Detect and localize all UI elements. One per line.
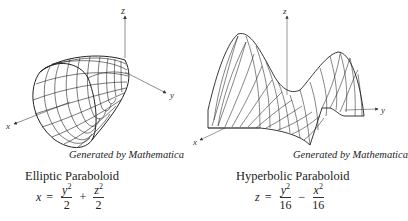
equation-right: z = y2 16 − x2 16: [255, 183, 327, 211]
denominator: 16: [279, 198, 291, 211]
x-axis-right: [200, 128, 225, 140]
exponent: 2: [99, 182, 103, 191]
exponent: 2: [319, 182, 323, 191]
elliptic-paraboloid-plot: [14, 16, 166, 148]
x-axis-label: x: [5, 121, 10, 131]
z-axis-label: z: [120, 5, 125, 16]
eq-lhs: x: [36, 190, 41, 205]
fraction: x2 16: [312, 183, 324, 211]
hyperbolic-paraboloid-plot: [200, 16, 378, 145]
equation-left: x = y2 2 + z2 2: [36, 183, 107, 211]
exponent: 2: [286, 182, 290, 191]
eq-equals: =: [265, 190, 272, 205]
y-axis: [125, 72, 166, 93]
denominator: 16: [312, 198, 324, 211]
x-axis-label-right: x: [192, 137, 197, 147]
y-axis-right: [345, 109, 378, 110]
eq-operator: −: [298, 190, 305, 205]
eq-lhs: z: [255, 190, 260, 205]
figure-title-left: Elliptic Paraboloid: [25, 169, 119, 184]
eq-equals: =: [46, 190, 53, 205]
eq-operator: +: [79, 190, 86, 205]
fraction: y2 16: [279, 183, 291, 211]
exponent: 2: [67, 182, 71, 191]
figure-credit-right: Generated by Mathematica: [293, 149, 408, 160]
z-axis-label-right: z: [282, 6, 287, 16]
y-axis-label: y: [169, 90, 174, 100]
fraction: z2 2: [93, 183, 104, 211]
denominator: 2: [64, 198, 70, 211]
y-axis-label-right: y: [380, 105, 385, 115]
denominator: 2: [96, 198, 102, 211]
figure-credit-left: Generated by Mathematica: [69, 149, 184, 160]
fraction: y2 2: [61, 183, 72, 211]
figure-title-right: Hyperbolic Paraboloid: [236, 169, 350, 184]
